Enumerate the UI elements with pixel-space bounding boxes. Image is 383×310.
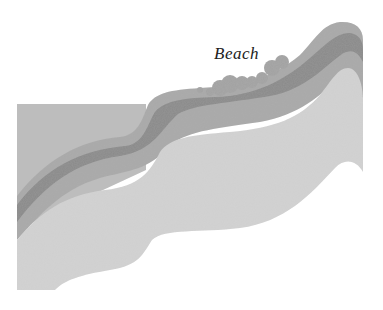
beach-cross-section-diagram — [0, 0, 383, 310]
beach-label: Beach — [214, 44, 259, 64]
